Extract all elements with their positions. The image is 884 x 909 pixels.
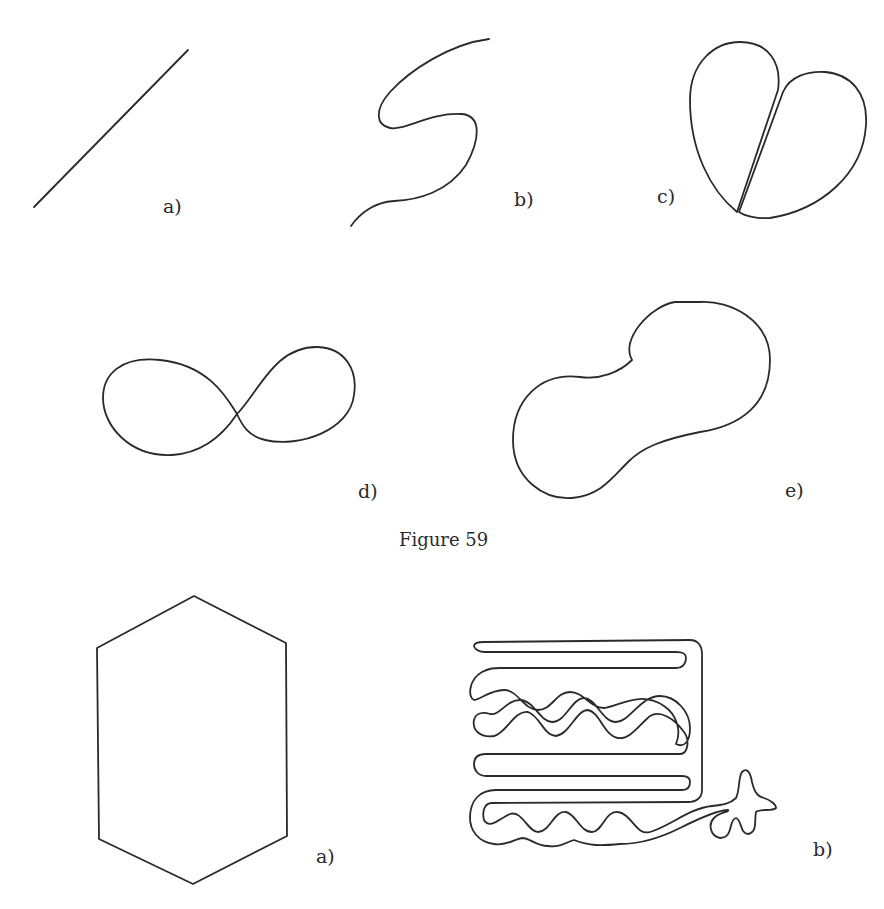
fig60-a-hexagon bbox=[97, 596, 287, 884]
fig60-a-label: a) bbox=[316, 847, 335, 866]
fig59-c-right-loop bbox=[739, 72, 866, 218]
fig60-b-label: b) bbox=[813, 840, 833, 859]
fig59-e-peanut bbox=[513, 302, 770, 498]
fig59-c-label: c) bbox=[657, 187, 675, 206]
fig59-b-label: b) bbox=[514, 190, 534, 209]
figure-drawings bbox=[0, 0, 884, 909]
fig59-a-line bbox=[34, 50, 188, 207]
fig59-a-label: a) bbox=[163, 197, 182, 216]
fig60-b-maze-curve bbox=[470, 640, 776, 846]
fig59-c-left-loop bbox=[690, 42, 779, 212]
fig59-d-figure-eight bbox=[103, 347, 355, 455]
figure-59-caption: Figure 59 bbox=[399, 531, 488, 549]
figure-page: a) b) c) d) e) Figure 59 a) b) bbox=[0, 0, 884, 909]
fig59-e-label: e) bbox=[785, 481, 804, 500]
fig59-d-label: d) bbox=[358, 482, 378, 501]
fig59-b-s-curve bbox=[351, 39, 489, 226]
